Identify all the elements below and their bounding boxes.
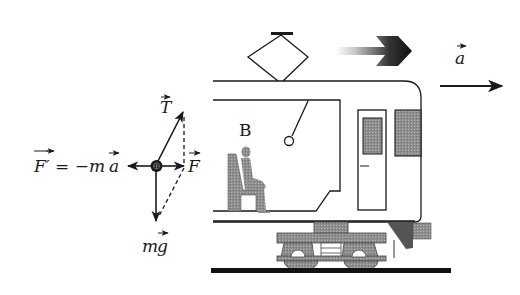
pendulum-bob-icon	[151, 160, 163, 172]
pantograph-icon	[248, 32, 308, 81]
inertial-force-label: F′ = −m a	[33, 151, 119, 176]
bogie-truck	[277, 222, 386, 261]
tension-label: T	[160, 97, 173, 117]
svg-text:a: a	[109, 156, 119, 176]
svg-text:T: T	[160, 97, 173, 117]
svg-text:m: m	[142, 236, 158, 256]
svg-text:= −m: = −m	[55, 156, 105, 176]
svg-text:a: a	[455, 48, 465, 68]
tension-vector-arrow	[157, 112, 183, 163]
train-car: B	[211, 32, 451, 273]
svg-text:F: F	[187, 156, 201, 176]
front-skirt	[387, 222, 413, 249]
force-diagram: T F F′ = −m a m g	[33, 97, 201, 256]
front-coupler	[413, 223, 431, 239]
svg-text:g: g	[157, 236, 168, 256]
diagram-canvas: T F F′ = −m a m g a	[0, 0, 520, 295]
pendulum-string	[292, 101, 308, 136]
dashed-construction-line-diagonal	[158, 168, 184, 218]
door-window	[363, 118, 382, 154]
gravity-label: m g	[142, 233, 168, 256]
front-window	[395, 110, 421, 156]
rail-track	[211, 268, 451, 273]
observer-label: B	[239, 120, 252, 140]
net-force-label: F	[187, 153, 201, 176]
pendulum-bob-in-car	[285, 137, 294, 146]
seated-passenger-icon	[241, 147, 270, 214]
motion-indicator-arrow	[336, 36, 412, 66]
svg-text:F′: F′	[33, 156, 50, 176]
acceleration-label: a	[455, 46, 466, 68]
